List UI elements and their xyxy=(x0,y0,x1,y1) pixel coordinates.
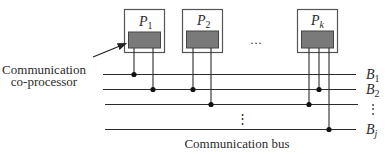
junction-dots xyxy=(131,72,331,132)
junction-dot xyxy=(190,87,195,92)
communication-bus xyxy=(103,75,358,130)
junction-dot xyxy=(208,102,213,107)
junction-dot xyxy=(306,102,311,107)
processor-p2: P2 xyxy=(183,10,223,53)
processor-p1: P1 xyxy=(125,10,165,53)
communication-coprocessor xyxy=(187,31,219,48)
arrow-icon xyxy=(93,44,126,58)
multibus-diagram: P1 P2 ··· Pk ⋮ xyxy=(0,0,391,154)
bus-label-bj: Bj xyxy=(366,122,378,139)
bus-connectors xyxy=(134,48,329,130)
junction-dot xyxy=(150,87,155,92)
bus-label-b2: B2 xyxy=(366,82,380,99)
processor-pk: Pk xyxy=(298,10,338,53)
communication-coprocessor xyxy=(129,32,161,48)
processor-ellipsis: ··· xyxy=(250,36,262,50)
bus-ellipsis: ⋮ xyxy=(236,111,249,126)
junction-dot xyxy=(131,72,136,77)
bus-label-ellipsis: ⋮ xyxy=(367,102,379,116)
communication-coprocessor xyxy=(302,31,334,48)
bus-caption: Communication bus xyxy=(184,136,289,151)
coprocessor-label-line2: co-processor xyxy=(11,74,78,89)
junction-dot xyxy=(326,127,331,132)
junction-dot xyxy=(316,87,321,92)
